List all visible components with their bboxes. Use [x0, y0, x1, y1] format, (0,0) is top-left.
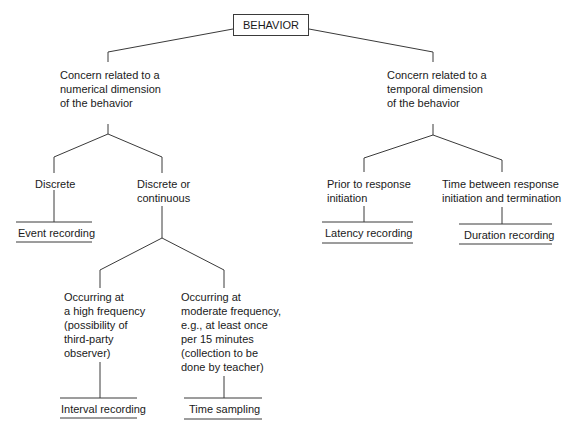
node-moderate-frequency: Occurring at moderate frequency, e.g., a…: [181, 290, 281, 374]
leaf-time-sampling: Time sampling: [189, 402, 260, 416]
node-time-between-response: Time between response initiation and ter…: [442, 177, 561, 205]
edge-numerical-docont: [108, 134, 162, 173]
leaf-event-recording: Event recording: [18, 226, 95, 240]
leaf-latency-recording: Latency recording: [325, 226, 412, 240]
root-node-behavior: BEHAVIOR: [233, 14, 309, 36]
edge-root-temporal: [309, 29, 433, 62]
node-high-frequency: Occurring at a high frequency (possibili…: [64, 290, 145, 360]
edge-docont-high: [100, 238, 162, 288]
edge-root-numerical: [108, 29, 233, 62]
node-numerical-dimension: Concern related to a numerical dimension…: [60, 68, 161, 110]
leaf-duration-recording: Duration recording: [464, 228, 555, 242]
node-discrete: Discrete: [35, 177, 75, 191]
edge-numerical-discrete: [54, 134, 108, 173]
node-temporal-dimension: Concern related to a temporal dimension …: [387, 68, 487, 110]
node-prior-to-response: Prior to response initiation: [327, 177, 411, 205]
edge-temporal-between: [433, 135, 502, 172]
edge-docont-moderate: [162, 238, 224, 288]
node-discrete-or-continuous: Discrete or continuous: [137, 177, 190, 205]
leaf-interval-recording: Interval recording: [61, 402, 146, 416]
edge-temporal-prior: [364, 135, 433, 172]
